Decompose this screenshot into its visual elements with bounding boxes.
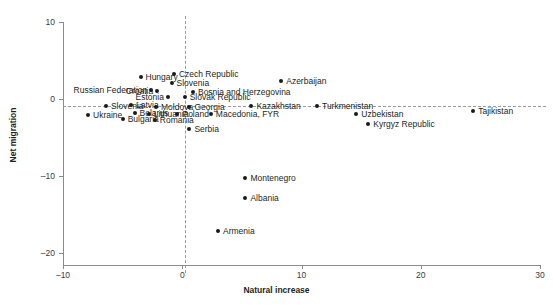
data-point-label: Azerbaijan: [286, 76, 326, 86]
y-tick-label: 0: [0, 94, 55, 104]
data-point-romania[interactable]: [153, 118, 157, 122]
data-point-kyrgyz-republic[interactable]: [366, 122, 370, 126]
y-tick: [59, 99, 63, 100]
data-point-tajikistan[interactable]: [471, 109, 475, 113]
data-point-slovenia2[interactable]: [104, 104, 108, 108]
data-point-label: Uzbekistan: [361, 109, 403, 119]
data-point-latvia[interactable]: [129, 103, 133, 107]
y-axis-line: [63, 22, 64, 265]
x-tick-label: 10: [297, 270, 306, 280]
data-point-albania[interactable]: [243, 196, 247, 200]
y-tick-label: –20: [0, 248, 55, 258]
data-point-ukraine[interactable]: [86, 113, 90, 117]
data-point-bulgaria[interactable]: [121, 117, 125, 121]
y-tick: [59, 253, 63, 254]
x-tick: [302, 265, 303, 269]
data-point-label: Romania: [160, 115, 194, 125]
data-point-turkmenistan[interactable]: [315, 104, 319, 108]
data-point-label: Tajikistan: [478, 106, 513, 116]
data-point-macedonia-fyr[interactable]: [209, 112, 213, 116]
data-point-montenegro[interactable]: [243, 176, 247, 180]
x-tick-label: 20: [416, 270, 425, 280]
data-point-azerbaijan[interactable]: [279, 79, 283, 83]
data-point-label: Kazakhstan: [256, 101, 300, 111]
y-tick: [59, 22, 63, 23]
data-point-kazakhstan[interactable]: [249, 104, 253, 108]
y-tick-label: –10: [0, 171, 55, 181]
data-point-estonia[interactable]: [166, 95, 170, 99]
y-axis-title: Net migration: [8, 100, 18, 170]
data-point-label: Kyrgyz Republic: [373, 119, 434, 129]
x-tick-label: –10: [56, 270, 70, 280]
data-point-label: Albania: [250, 193, 278, 203]
zero-natural-increase-reference-line: [185, 16, 186, 273]
data-point-label: Montenegro: [250, 173, 295, 183]
x-tick: [182, 265, 183, 269]
data-point-label: Ukraine: [93, 110, 122, 120]
x-tick: [540, 265, 541, 269]
x-tick-label: 30: [535, 270, 544, 280]
y-tick: [59, 176, 63, 177]
x-tick: [63, 265, 64, 269]
data-point-uzbekistan[interactable]: [354, 112, 358, 116]
data-point-slovak-republic[interactable]: [183, 95, 187, 99]
data-point-armenia[interactable]: [216, 229, 220, 233]
data-point-label: Armenia: [223, 226, 255, 236]
x-tick: [421, 265, 422, 269]
data-point-hungary[interactable]: [139, 75, 143, 79]
data-point-slovenia[interactable]: [170, 81, 174, 85]
y-tick-label: 10: [0, 17, 55, 27]
scatter-plot: Net migration Natural increase –10010203…: [0, 0, 553, 305]
data-point-serbia[interactable]: [187, 127, 191, 131]
x-axis-title: Natural increase: [0, 285, 553, 295]
x-tick-label: 0: [180, 270, 185, 280]
data-point-czech-republic[interactable]: [172, 72, 176, 76]
data-point-label: Serbia: [194, 124, 219, 134]
